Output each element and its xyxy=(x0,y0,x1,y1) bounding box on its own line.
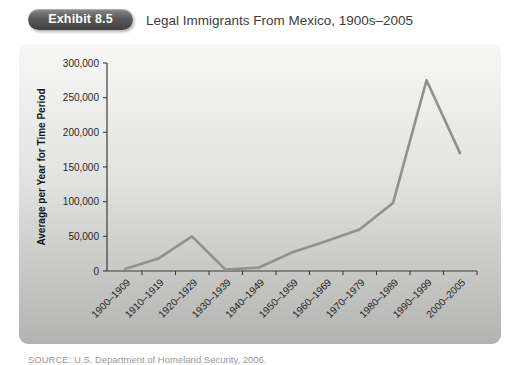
y-tick-label: 0 xyxy=(93,266,99,277)
exhibit-badge: Exhibit 8.5 xyxy=(28,9,133,30)
y-tick-label: 300,000 xyxy=(63,58,100,69)
y-tick-label: 200,000 xyxy=(63,127,100,138)
y-tick-label: 50,000 xyxy=(68,231,99,242)
chart-panel: Average per Year for Time Period 050,000… xyxy=(19,44,501,344)
source-note: SOURCE: U.S. Department of Homeland Secu… xyxy=(28,354,266,365)
y-axis-title: Average per Year for Time Period xyxy=(36,88,47,245)
page: Exhibit 8.5 Legal Immigrants From Mexico… xyxy=(0,0,519,365)
exhibit-badge-label: Exhibit 8.5 xyxy=(48,12,113,26)
y-tick-label: 250,000 xyxy=(63,92,100,103)
chart-title: Legal Immigrants From Mexico, 1900s–2005 xyxy=(146,13,413,28)
chart-svg: Average per Year for Time Period 050,000… xyxy=(19,44,501,344)
data-line xyxy=(125,80,460,269)
y-tick-label: 100,000 xyxy=(63,196,100,207)
y-tick-label: 150,000 xyxy=(63,162,100,173)
